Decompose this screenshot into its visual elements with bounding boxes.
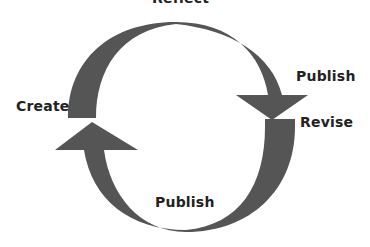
bottom-arc-arrow xyxy=(55,122,295,232)
label-reflect: Reflect xyxy=(152,0,209,6)
label-revise: Revise xyxy=(300,114,353,130)
label-create: Create xyxy=(16,98,70,114)
top-arc-arrow xyxy=(68,22,308,120)
revise-block xyxy=(265,119,295,127)
label-publish-top: Publish xyxy=(296,68,356,84)
label-publish-bottom: Publish xyxy=(155,194,215,210)
